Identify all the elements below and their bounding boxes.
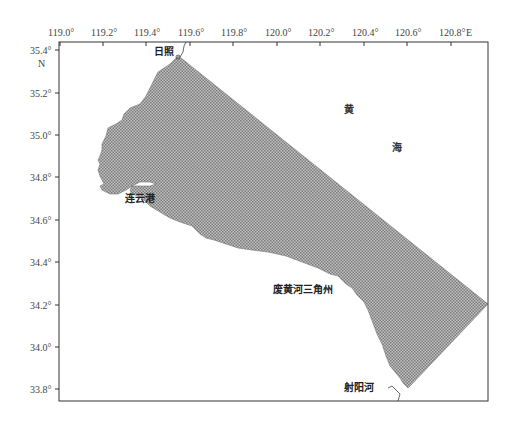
y-tick-label: 34.2° [30, 300, 52, 311]
x-tick-label: 120.2° [308, 27, 335, 38]
rizhao-river-line [180, 42, 186, 57]
y-tick-label: 34.6° [30, 215, 52, 226]
y-axis-unit: N [38, 58, 45, 69]
x-tick-label: 120.4° [352, 27, 379, 38]
study-area-region [98, 56, 488, 388]
study-area-map: 119.0° 119.2° 119.4° 119.6° 119.8° 120.0… [0, 0, 516, 430]
label-yellow-sea-2: 海 [392, 141, 402, 153]
y-tick-label: 35.0° [30, 130, 52, 141]
x-tick-label: 120.0° [265, 27, 292, 38]
label-feihuanghe-delta: 废黄河三角州 [273, 283, 333, 295]
y-tick-label: 33.8° [30, 384, 52, 395]
label-yellow-sea-1: 黄 [344, 103, 354, 115]
y-tick-label: 34.8° [30, 172, 52, 183]
y-tick-label: 34.4° [30, 257, 52, 268]
x-tick-label: 119.6° [178, 27, 204, 38]
x-tick-label: 119.2° [91, 27, 117, 38]
sheyang-river-line [388, 386, 400, 401]
x-axis-unit: E [466, 27, 472, 38]
x-tick-label: 119.4° [134, 27, 160, 38]
x-tick-label: 120.6° [395, 27, 422, 38]
x-tick-label: 119.0° [48, 27, 74, 38]
label-lianyungang: 连云港 [125, 192, 156, 204]
y-tick-label: 35.2° [30, 88, 52, 99]
x-tick-label: 119.8° [221, 27, 247, 38]
label-sheyanghe: 射阳河 [343, 381, 374, 393]
x-axis: 119.0° 119.2° 119.4° 119.6° 119.8° 120.0… [48, 27, 472, 46]
y-tick-label: 35.4° [30, 45, 52, 56]
label-rizhao: 日照 [154, 46, 174, 57]
y-tick-label: 34.0° [30, 342, 52, 353]
y-axis: 35.4° N 35.2° 35.0° 34.8° 34.6° 34.4° 34… [30, 45, 59, 395]
x-tick-label: 120.8° [439, 27, 466, 38]
